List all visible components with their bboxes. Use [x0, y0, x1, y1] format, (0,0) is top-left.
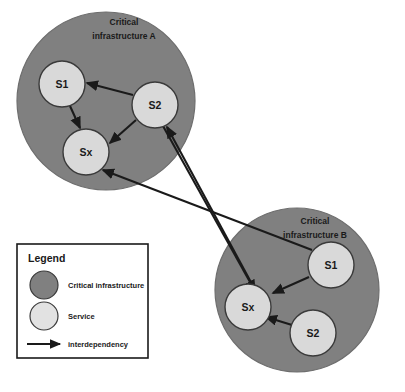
service-a-sx[interactable]: Sx	[63, 129, 109, 175]
legend: Legend Critical infrastructure Service i…	[17, 244, 148, 358]
service-b-s2[interactable]: S2	[290, 310, 336, 356]
service-a-s2[interactable]: S2	[132, 82, 178, 128]
service-a-sx-label: Sx	[80, 146, 93, 158]
service-b-s2-label: S2	[307, 327, 320, 339]
service-b-sx-label: Sx	[242, 301, 255, 313]
legend-service-label: Service	[68, 312, 95, 321]
diagram-canvas: Critical infrastructure A Critical infra…	[0, 0, 405, 392]
service-b-s1-label: S1	[325, 259, 338, 271]
infrastructure-b-label-line2: infrastructure B	[283, 230, 347, 240]
legend-infrastructure-swatch-icon	[30, 271, 58, 299]
infrastructure-b-label-line1: Critical	[301, 216, 330, 226]
legend-interdependency-label: interdependency	[68, 340, 129, 349]
service-a-s1[interactable]: S1	[39, 61, 85, 107]
legend-title: Legend	[28, 252, 65, 264]
infrastructure-a-label-line1: Critical	[110, 17, 139, 27]
service-b-sx[interactable]: Sx	[225, 284, 271, 330]
service-a-s1-label: S1	[56, 78, 69, 90]
legend-infrastructure-label: Critical infrastructure	[68, 281, 144, 290]
interdependency-diagram: Critical infrastructure A Critical infra…	[0, 0, 405, 392]
interdependency-a-s2-to-b-sx[interactable]	[163, 126, 255, 291]
infrastructure-a-label-line2: infrastructure A	[92, 31, 155, 41]
legend-service-swatch-icon	[30, 302, 58, 330]
service-a-s2-label: S2	[149, 99, 162, 111]
service-b-s1[interactable]: S1	[308, 242, 354, 288]
